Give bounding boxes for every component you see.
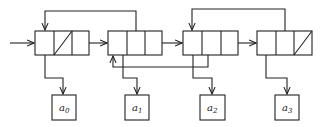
data-label-2: a2 bbox=[207, 102, 218, 115]
data-label-0: a0 bbox=[59, 102, 70, 115]
back-arrow-3-2 bbox=[192, 9, 285, 31]
diagram-svg: a0 a1 a2 a3 bbox=[0, 0, 320, 127]
data-label-3: a3 bbox=[282, 102, 293, 115]
back-arrow-2-1 bbox=[113, 55, 208, 67]
back-arrow-1-0 bbox=[45, 11, 136, 31]
data-arrow-2 bbox=[193, 55, 212, 94]
data-arrow-1 bbox=[123, 55, 137, 94]
data-label-1: a1 bbox=[132, 102, 142, 115]
node-2 bbox=[183, 31, 238, 55]
linked-list-diagram: a0 a1 a2 a3 bbox=[0, 0, 320, 127]
node-3 bbox=[257, 31, 312, 55]
null-pointer-slash bbox=[54, 31, 72, 55]
node-1 bbox=[108, 31, 162, 55]
node-0 bbox=[35, 31, 89, 55]
null-pointer-slash bbox=[294, 31, 312, 55]
data-arrow-0 bbox=[45, 55, 63, 94]
data-arrow-3 bbox=[266, 55, 287, 94]
